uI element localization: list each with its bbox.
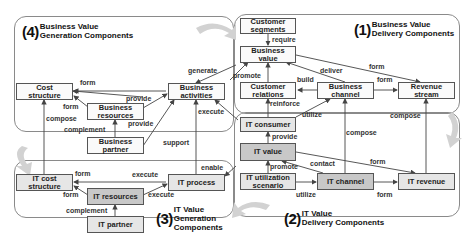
label-form-it-value-revenue: form xyxy=(370,158,386,166)
label-generate: generate xyxy=(188,67,217,75)
panel-4-number: (4) xyxy=(22,23,39,40)
label-contact: contact xyxy=(310,160,335,168)
node-business-partner: Businesspartner xyxy=(87,137,144,154)
panel-4-title: (4) Business Value Generation Components xyxy=(22,22,133,40)
label-provide-resources: provide xyxy=(126,95,151,103)
node-business-resources: Businessresources xyxy=(87,103,144,120)
node-it-revenue: IT revenue xyxy=(398,173,455,190)
panel-2-line2: Delivery Components xyxy=(302,218,384,227)
label-compose-channel: compose xyxy=(346,129,377,137)
node-cost-structure: Coststructure xyxy=(16,83,73,100)
node-business-value: Businessvalue xyxy=(240,46,296,63)
label-support: support xyxy=(163,139,189,147)
panel-3-line2: Generation xyxy=(174,214,216,223)
label-provide-partner: provide xyxy=(128,120,153,128)
label-utilize-bottom: utilize xyxy=(296,191,316,199)
label-promote-it-utilization: promote xyxy=(270,163,298,171)
label-form-it-cost-2: form xyxy=(63,191,79,199)
cycle-arrow-top xyxy=(196,23,236,40)
node-business-channel: Businesschannel xyxy=(317,82,374,99)
panel-3-number: (3) xyxy=(156,210,173,227)
panel-4-line2: Generation Components xyxy=(40,31,133,40)
node-it-consumer: IT consumer xyxy=(240,117,296,132)
panel-3-title: (3) IT Value Generation Components xyxy=(156,205,223,232)
cycle-arrow-bottom xyxy=(232,202,270,218)
node-customer-segments: Customersegments xyxy=(240,18,296,34)
label-form-channel-revenue: form xyxy=(377,76,393,84)
label-require: require xyxy=(272,36,296,44)
label-execute-it-resources: execute xyxy=(132,171,158,179)
node-it-value: IT value xyxy=(240,143,296,161)
label-provide-it-value: provide xyxy=(272,133,297,141)
label-compose-cost: compose xyxy=(46,115,77,123)
label-deliver: deliver xyxy=(320,67,343,75)
node-it-utilization-scenario: IT utilizationscenario xyxy=(240,173,296,190)
panel-3-line3: Components xyxy=(174,223,223,232)
label-form-resources-cost: form xyxy=(63,103,79,111)
label-compose-revenue: compose xyxy=(390,112,421,120)
panel-4-line1: Business Value xyxy=(40,22,99,31)
node-revenue-stream: Revenuestream xyxy=(398,82,455,99)
panel-1-line2: Delivery Components xyxy=(372,29,454,38)
label-build: build xyxy=(297,76,314,84)
node-it-cost-structure: IT coststructure xyxy=(16,174,73,191)
panel-2-title: (2) IT Value Delivery Components xyxy=(284,209,384,227)
label-form-it-channel-revenue: form xyxy=(377,191,393,199)
node-it-channel: IT channel xyxy=(317,173,374,190)
node-business-activities: Businessactivities xyxy=(168,83,225,100)
node-it-resources: IT resources xyxy=(87,188,144,205)
panel-1-line1: Business Value xyxy=(372,20,431,29)
business-it-value-diagram: (4) Business Value Generation Components… xyxy=(0,0,468,248)
panel-1-title: (1) Business Value Delivery Components xyxy=(354,20,454,38)
label-promote-business-value: promote xyxy=(233,72,261,80)
label-form-cost: form xyxy=(80,79,96,87)
panel-3-line1: IT Value xyxy=(174,205,204,214)
label-complement-business: complement xyxy=(64,126,105,134)
cycle-arrow-right xyxy=(446,112,462,148)
label-utilize-top: utilize xyxy=(302,111,322,119)
label-reinforce: reinforce xyxy=(270,100,300,108)
node-it-process: IT process xyxy=(168,174,225,191)
label-execute-it-process: execute xyxy=(148,191,174,199)
panel-1-number: (1) xyxy=(354,21,371,38)
node-it-partner: IT partner xyxy=(87,216,144,233)
node-customer-relations: Customerrelations xyxy=(240,82,296,99)
label-complement-it: complement xyxy=(66,207,107,215)
label-enable: enable xyxy=(201,164,223,172)
label-form-it-cost-1: form xyxy=(75,170,91,178)
cycle-arrow-left xyxy=(16,146,32,176)
panel-2-line1: IT Value xyxy=(302,209,332,218)
label-form-value-revenue: form xyxy=(369,63,385,71)
panel-2-number: (2) xyxy=(284,210,301,227)
label-execute-business: execute xyxy=(198,108,224,116)
